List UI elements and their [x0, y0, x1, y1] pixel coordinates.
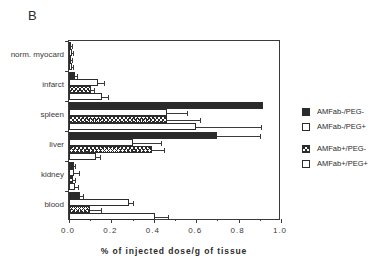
legend-label: AMFab+/PEG- — [317, 144, 366, 153]
error-bar-cap — [73, 51, 74, 56]
error-bar-cap — [72, 44, 73, 49]
x-tick-minor — [175, 219, 176, 221]
bar — [69, 199, 129, 206]
error-bar-cap — [75, 164, 76, 169]
plot-area — [68, 40, 280, 220]
x-tick — [281, 219, 282, 223]
x-tick — [196, 219, 197, 223]
error-bar-cap — [133, 201, 134, 206]
y-tick — [65, 41, 69, 42]
error-bar-cap — [72, 58, 73, 63]
error-bar-cap — [100, 155, 101, 160]
x-tick-minor — [90, 219, 91, 221]
y-axis-category-label: infarct — [0, 80, 64, 89]
x-tick-label: 0.2 — [103, 226, 117, 235]
error-bar-cap — [164, 148, 165, 153]
legend-label: AMFab-/PEG- — [317, 107, 364, 116]
x-tick — [69, 219, 70, 223]
legend-swatch-icon — [302, 145, 310, 153]
legend-item: AMFab+/PEG- — [302, 145, 382, 153]
error-bar-cap — [94, 88, 95, 93]
legend-swatch-icon — [302, 123, 310, 131]
x-tick-label: 0.0 — [61, 226, 75, 235]
error-bar-line — [196, 127, 261, 128]
error-bar-line — [167, 120, 200, 121]
x-tick-label: 0.4 — [146, 226, 160, 235]
error-bar-cap — [75, 178, 76, 183]
legend-swatch-icon — [302, 160, 310, 168]
x-tick-label: 1.0 — [273, 226, 287, 235]
error-bar-line — [90, 210, 101, 211]
x-tick-minor — [133, 219, 134, 221]
panel-label: B — [28, 8, 37, 23]
error-bar-cap — [168, 215, 169, 220]
error-bar-line — [217, 136, 259, 137]
error-bar-cap — [187, 111, 188, 116]
y-axis-category-label: spleen — [0, 110, 64, 119]
bar — [69, 93, 102, 100]
error-bar-cap — [261, 125, 262, 130]
y-tick — [65, 161, 69, 162]
y-tick — [65, 101, 69, 102]
error-bar-cap — [200, 118, 201, 123]
bar — [69, 116, 167, 123]
legend-item: AMFab-/PEG- — [302, 108, 382, 116]
bar — [69, 192, 80, 199]
error-bar-line — [167, 113, 187, 114]
error-bar-cap — [101, 208, 102, 213]
x-tick — [239, 219, 240, 223]
error-bar-cap — [83, 194, 84, 199]
error-bar-cap — [73, 65, 74, 70]
bar — [69, 86, 91, 93]
legend-label: AMFab+/PEG+ — [317, 159, 368, 168]
x-tick-minor — [217, 219, 218, 221]
y-axis-category-label: norm. myocard — [0, 50, 64, 59]
chart-legend: AMFab-/PEG-AMFab-/PEG+AMFab+/PEG-AMFab+/… — [302, 108, 382, 175]
y-tick — [65, 131, 69, 132]
error-bar-line — [152, 150, 165, 151]
legend-item: AMFab+/PEG+ — [302, 160, 382, 168]
y-axis-category-label: liver — [0, 140, 64, 149]
bar — [69, 146, 152, 153]
legend-label: AMFab-/PEG+ — [317, 122, 366, 131]
error-bar-line — [155, 217, 168, 218]
error-bar-cap — [79, 171, 80, 176]
x-tick-minor — [260, 219, 261, 221]
error-bar-cap — [77, 74, 78, 79]
error-bar-cap — [260, 134, 261, 139]
x-axis-title: % of injected dose/g of tissue — [68, 246, 280, 256]
bar — [69, 206, 90, 213]
bar — [69, 153, 96, 160]
x-tick — [111, 219, 112, 223]
bar — [69, 132, 217, 139]
x-tick-label: 0.8 — [231, 226, 245, 235]
bar — [69, 102, 263, 109]
x-tick — [154, 219, 155, 223]
legend-swatch-icon — [302, 108, 310, 116]
legend-item: AMFab-/PEG+ — [302, 123, 382, 131]
y-tick — [65, 191, 69, 192]
bar — [69, 123, 196, 130]
error-bar-line — [133, 143, 162, 144]
figure-panel-b: B norm. myocardinfarctspleenliverkidneyb… — [0, 0, 382, 278]
y-axis-category-label: kidney — [0, 170, 64, 179]
bar — [69, 139, 133, 146]
x-tick-label: 0.6 — [188, 226, 202, 235]
bar — [69, 109, 167, 116]
error-bar-cap — [108, 95, 109, 100]
error-bar-cap — [78, 185, 79, 190]
y-tick — [65, 71, 69, 72]
y-axis-category-label: blood — [0, 200, 64, 209]
error-bar-cap — [161, 141, 162, 146]
bar — [69, 79, 98, 86]
error-bar-cap — [104, 81, 105, 86]
